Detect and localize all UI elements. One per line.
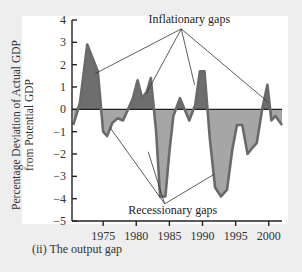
svg-text:2000: 2000 <box>257 229 281 243</box>
svg-text:1: 1 <box>60 80 66 94</box>
output-gap-chart: Inflationary gapsRecessionary gaps 43210… <box>0 0 302 272</box>
inflationary-gaps-label: Inflationary gaps <box>148 12 230 26</box>
svg-text:1980: 1980 <box>124 229 148 243</box>
svg-text:−1: −1 <box>53 125 66 139</box>
svg-text:−2: −2 <box>53 147 66 161</box>
recessionary-gap-area <box>73 45 282 197</box>
y-axis-label: Percentage Deviation of Actual GDP from … <box>10 30 36 220</box>
svg-text:−5: −5 <box>53 214 66 228</box>
svg-text:1975: 1975 <box>91 229 115 243</box>
svg-text:3: 3 <box>60 35 66 49</box>
svg-text:1985: 1985 <box>157 229 181 243</box>
y-axis-label-line-2: from Potential GDP <box>23 30 36 220</box>
svg-text:1990: 1990 <box>191 229 215 243</box>
svg-text:−3: −3 <box>53 169 66 183</box>
recessionary-gaps-label: Recessionary gaps <box>128 203 217 217</box>
svg-text:−4: −4 <box>53 192 66 206</box>
svg-text:1995: 1995 <box>224 229 248 243</box>
svg-text:4: 4 <box>60 13 66 27</box>
svg-text:2: 2 <box>60 58 66 72</box>
y-axis-label-line-1: Percentage Deviation of Actual GDP <box>10 30 23 220</box>
svg-text:0: 0 <box>60 102 66 116</box>
figure-caption: (ii) The output gap <box>32 242 122 257</box>
